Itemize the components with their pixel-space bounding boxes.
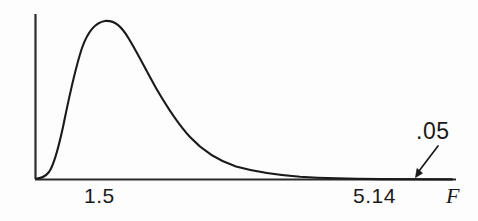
f-distribution-figure: 1.5 5.14 F .05 <box>0 0 478 221</box>
x-tick-label-1-5: 1.5 <box>84 185 115 206</box>
tail-area-label: .05 <box>416 120 449 143</box>
distribution-plot <box>0 0 478 221</box>
x-axis-label: F <box>446 185 459 207</box>
density-curve <box>37 21 452 179</box>
tail-annotation-arrow <box>416 146 439 178</box>
x-tick-label-5-14: 5.14 <box>353 185 396 206</box>
